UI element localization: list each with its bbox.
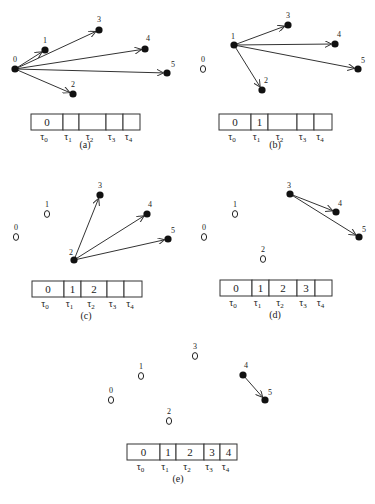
active-node-icon [143,210,150,217]
tau-label: τ4 [317,297,325,310]
node-label: 5 [361,56,365,65]
node-2: 2 [258,76,268,94]
tau-label: τ3 [299,131,307,144]
inactive-node-icon [232,211,237,218]
node-3: 3 [95,15,102,34]
tau-label: τ3 [299,297,307,310]
inactive-node-icon [166,418,171,425]
active-node-icon [258,86,265,93]
edges [291,194,356,234]
edge-arrow [75,216,144,259]
edge-arrow [235,44,331,45]
node-2: 2 [69,80,76,98]
cell-value: 2 [91,283,97,295]
node-2: 2 [69,248,78,264]
panel-b: 0123450τ01τ1τ2τ3τ4(b) [200,11,365,151]
table-cell [123,114,140,130]
inactive-node-icon [260,256,265,263]
node-2: 2 [260,245,265,262]
edge-arrow [235,46,260,87]
table-cell [315,280,332,296]
tau-label: τ4 [126,298,134,311]
node-5: 5 [355,225,366,241]
tau-label: τ1 [254,297,262,310]
diagram-canvas: 0123450τ0τ1τ2τ3τ4(a)0123450τ01τ1τ2τ3τ4(b… [0,0,375,504]
cell-value: 3 [303,282,309,294]
tau-label: τ1 [161,461,169,474]
table-cell [297,114,314,130]
tau-label: τ2 [183,461,191,474]
node-4: 4 [141,34,150,53]
cell-value: 4 [226,446,232,458]
node-label: 1 [43,36,47,45]
edge-arrow [16,52,42,68]
inactive-node-icon [44,211,49,218]
active-node-icon [332,208,339,215]
active-node-icon [331,40,338,47]
node-label: 4 [338,199,342,208]
tau-label: τ0 [40,131,48,144]
node-1: 1 [232,200,237,217]
node-label: 3 [286,11,290,20]
tau-label: τ0 [41,298,49,311]
node-label: 4 [244,361,248,370]
node-label: 0 [109,386,113,395]
node-5: 5 [164,226,175,243]
node-5: 5 [163,60,175,77]
node-3: 3 [192,342,197,359]
active-node-icon [95,26,102,33]
cell-value: 3 [209,446,215,458]
active-node-icon [261,396,268,403]
node-3: 3 [284,11,291,29]
node-5: 5 [354,56,365,73]
tau-label: τ0 [137,461,145,474]
panel-d: 0123450τ01τ12τ23τ3τ4(d) [201,181,366,321]
cell-value: 0 [45,283,51,295]
node-1: 1 [44,200,49,217]
schedule-table: 0τ01τ12τ23τ34τ4 [127,444,237,474]
tau-label: τ3 [109,298,117,311]
panel-caption: (d) [269,309,281,321]
cell-value: 0 [232,116,238,128]
active-node-icon [286,190,293,197]
node-label: 1 [233,200,237,209]
node-label: 4 [337,30,341,39]
node-label: 3 [97,15,101,24]
node-0: 0 [200,55,205,72]
cell-value: 2 [280,282,286,294]
active-node-icon [355,233,362,240]
inactive-node-icon [200,66,205,73]
edge-arrow [16,50,141,69]
inactive-node-icon [13,234,18,241]
active-node-icon [354,65,361,72]
cell-value: 1 [257,116,263,128]
node-4: 4 [332,199,342,216]
active-node-icon [96,191,103,198]
active-node-icon [163,69,170,76]
node-5: 5 [261,388,272,404]
active-node-icon [164,235,171,242]
edges [244,376,263,397]
node-1: 1 [138,362,143,379]
cell-value: 1 [165,446,171,458]
tau-label: τ1 [66,298,74,311]
active-node-icon [70,256,77,263]
tau-label: τ3 [108,131,116,144]
tau-label: τ4 [316,131,324,144]
panel-e: 0123450τ01τ12τ23τ34τ4(e) [108,342,272,485]
node-label: 4 [148,200,152,209]
tau-label: τ4 [125,131,133,144]
node-label: 5 [171,226,175,235]
table-cell [107,281,124,297]
tau-label: τ0 [228,131,236,144]
inactive-node-icon [138,373,143,380]
node-0: 0 [13,223,18,240]
table-cell [63,114,79,130]
active-node-icon [284,21,291,28]
node-label: 5 [268,388,272,397]
node-label: 3 [193,342,197,351]
table-cell [314,114,332,130]
active-node-icon [69,90,76,97]
inactive-node-icon [192,353,197,360]
edge-arrow [74,199,98,259]
